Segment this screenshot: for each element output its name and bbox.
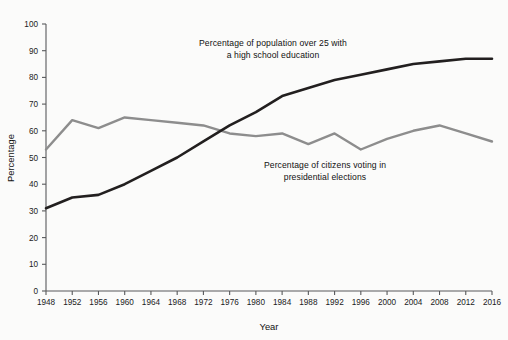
y-axis-tick-label: 90 [29,47,39,56]
annotation-voting-series: Percentage of citizens voting in preside… [240,160,410,183]
x-axis-tick-group: 1948195219561960196419681972197619801984… [37,291,502,307]
series-line-education [46,59,492,209]
y-axis-tick-label: 60 [29,127,39,136]
x-axis-tick-label: 1964 [142,298,161,307]
x-axis-tick-label: 2008 [430,298,449,307]
y-axis-tick-label: 20 [29,234,39,243]
x-axis-tick-label: 1952 [63,298,82,307]
y-axis-title: Percentage [5,134,16,182]
series-line-voting [46,117,492,149]
x-axis-tick-label: 1960 [116,298,135,307]
y-axis-tick-label: 10 [29,260,39,269]
x-axis-tick-label: 1984 [273,298,292,307]
x-axis-tick-label: 1968 [168,298,187,307]
x-axis-tick-label: 2000 [378,298,397,307]
y-axis-tick-label: 80 [29,73,39,82]
y-axis-tick-label: 50 [29,154,39,163]
x-axis-tick-label: 1976 [221,298,240,307]
x-axis-tick-label: 1996 [352,298,371,307]
x-axis-tick-label: 2016 [483,298,502,307]
chart-container: 0102030405060708090100 19481952195619601… [0,0,508,340]
y-axis-tick-label: 0 [33,287,38,296]
y-axis-tick-label: 70 [29,100,39,109]
x-axis-tick-label: 1992 [325,298,344,307]
x-axis-tick-label: 1988 [299,298,318,307]
x-axis-tick-label: 1956 [89,298,108,307]
x-axis-tick-label: 2012 [457,298,476,307]
x-axis-title: Year [260,321,279,332]
x-axis-tick-label: 2004 [404,298,423,307]
y-axis-tick-label: 100 [24,20,38,29]
annotation-education-series: Percentage of population over 25 with a … [188,38,358,61]
y-axis-tick-label: 30 [29,207,39,216]
y-axis-tick-group: 0102030405060708090100 [24,20,46,296]
x-axis-tick-label: 1980 [247,298,266,307]
x-axis-tick-label: 1972 [194,298,213,307]
x-axis-tick-label: 1948 [37,298,56,307]
y-axis-tick-label: 40 [29,180,39,189]
